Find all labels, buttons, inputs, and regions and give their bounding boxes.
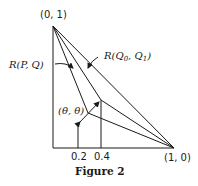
vertex-top-label: (0, 1) xyxy=(40,9,67,20)
tick-0-2: 0.2 xyxy=(71,151,87,162)
figure-diagram: (0, 1) (1, 0) R(P, Q) R(Q0, Q1) (θ, θ) 0… xyxy=(0,0,198,186)
label-theta: (θ, θ) xyxy=(58,105,84,116)
arrow-r-pq xyxy=(55,64,73,69)
vertex-right-label: (1, 0) xyxy=(164,152,191,163)
label-r-q0q1: R(Q0, Q1) xyxy=(103,50,151,63)
tick-0-4: 0.4 xyxy=(94,151,110,162)
figure-caption: Figure 2 xyxy=(75,165,125,177)
label-r-pq: R(P, Q) xyxy=(8,59,44,70)
hypotenuse-line xyxy=(53,26,174,148)
